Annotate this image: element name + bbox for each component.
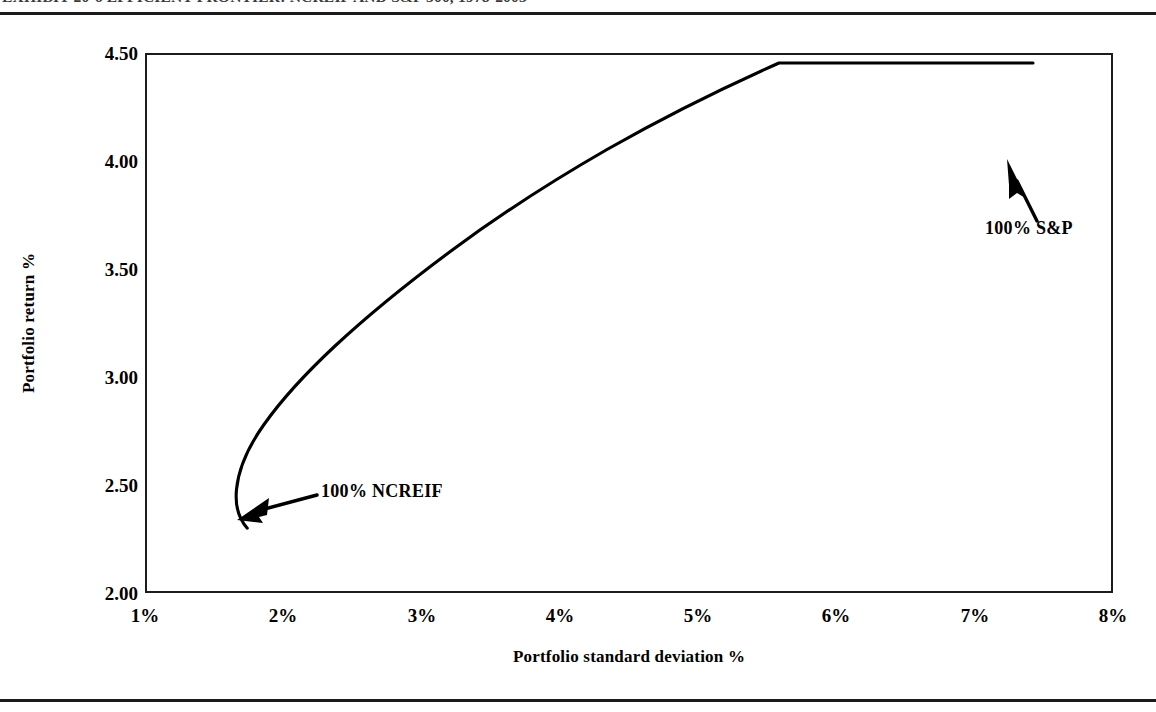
efficient-frontier-curve	[236, 63, 1033, 528]
x-axis-ticks: 1% 2% 3% 4% 5% 6% 7% 8%	[145, 606, 1113, 636]
y-axis-title-wrapper: Portfolio return %	[14, 53, 44, 593]
y-axis-title: Portfolio return %	[19, 253, 39, 393]
plot-canvas	[145, 53, 1113, 593]
x-tick-6pct: 6%	[796, 606, 876, 625]
x-tick-1pct: 1%	[105, 606, 185, 625]
ncreif-arrow	[237, 495, 317, 523]
x-tick-4pct: 4%	[520, 606, 600, 625]
annotation-sp-label: 100% S&P	[985, 219, 1073, 237]
x-tick-8pct: 8%	[1073, 606, 1153, 625]
x-tick-7pct: 7%	[935, 606, 1015, 625]
sp-arrow	[1007, 159, 1037, 221]
annotation-ncreif-label: 100% NCREIF	[321, 482, 443, 500]
page-rule-bottom	[0, 699, 1156, 702]
x-tick-3pct: 3%	[382, 606, 462, 625]
x-tick-2pct: 2%	[243, 606, 323, 625]
exhibit-caption: EXHIBIT 20-6 EFFICIENT FRONTIER: NCREIF …	[2, 0, 527, 6]
exhibit-page: EXHIBIT 20-6 EFFICIENT FRONTIER: NCREIF …	[0, 0, 1156, 712]
efficient-frontier-figure: 4.50 4.00 3.50 3.00 2.50 2.00 1% 2% 3% 4…	[0, 14, 1156, 698]
exhibit-caption-clip: EXHIBIT 20-6 EFFICIENT FRONTIER: NCREIF …	[0, 0, 1156, 11]
x-axis-title: Portfolio standard deviation %	[145, 647, 1113, 667]
x-tick-5pct: 5%	[658, 606, 738, 625]
